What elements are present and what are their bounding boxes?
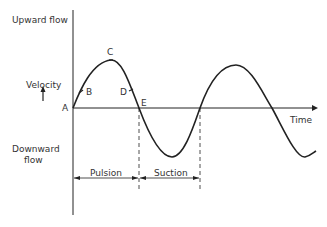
velocity-label: Velocity (26, 80, 61, 90)
point-a-label: A (62, 103, 68, 113)
point-b-label: B (86, 87, 92, 97)
downward-flow-label-line2: flow (24, 155, 43, 165)
pulsation-diagram: Upward flow Velocity Downward flow Time … (0, 0, 327, 227)
time-axis-label: Time (290, 115, 312, 125)
point-c-label: C (107, 47, 113, 57)
pulsion-label: Pulsion (90, 168, 122, 178)
diagram-canvas (0, 0, 327, 227)
suction-label: Suction (154, 168, 188, 178)
point-e-label: E (141, 98, 147, 108)
upward-flow-label: Upward flow (12, 15, 68, 25)
downward-flow-label-line1: Downward (12, 144, 60, 154)
x-axis-arrow-icon (312, 105, 318, 111)
point-d-label: D (120, 87, 127, 97)
